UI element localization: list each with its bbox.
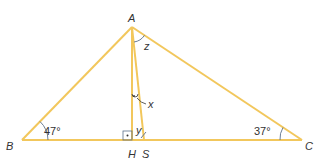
vertex-label-h: H <box>128 148 136 160</box>
vertex-label-c: C <box>305 140 313 152</box>
vertex-label-a: A <box>127 12 135 24</box>
angle-arc-c <box>280 128 283 141</box>
right-angle-dot <box>127 135 129 137</box>
angle-label-b: 47° <box>44 125 61 137</box>
triangle-diagram: A B C H S 47° 37° x y z <box>0 0 321 164</box>
angle-label-z: z <box>143 40 150 52</box>
angle-x-leader <box>137 98 146 104</box>
side-ab <box>22 27 132 140</box>
vertex-label-b: B <box>6 140 13 152</box>
angle-label-c: 37° <box>254 125 271 137</box>
side-ac <box>132 27 302 140</box>
angle-label-x: x <box>147 98 154 110</box>
vertex-label-s: S <box>142 148 150 160</box>
angle-x-dot <box>133 95 135 97</box>
angle-arc-z <box>134 35 145 42</box>
